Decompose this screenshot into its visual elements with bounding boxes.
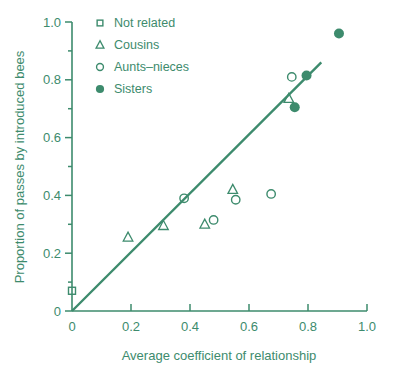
legend: Not relatedCousinsAunts–niecesSisters xyxy=(96,16,189,96)
regression-line xyxy=(72,62,321,311)
y-axis-tick-label: 0.2 xyxy=(43,246,61,261)
data-point-open-circle xyxy=(288,73,296,81)
legend-marker-open-circle xyxy=(97,64,104,71)
data-point-open-circle xyxy=(209,216,217,224)
legend-item-label: Cousins xyxy=(114,38,159,52)
y-axis-tick-labels: 00.20.40.60.81.0 xyxy=(43,15,61,319)
data-point-open-triangle xyxy=(200,219,210,228)
data-point-filled-circle xyxy=(334,29,344,39)
data-point-open-triangle xyxy=(123,232,133,241)
series-sisters xyxy=(290,29,344,113)
y-axis-tick-label: 0.4 xyxy=(43,188,61,203)
x-axis-tick-label: 0 xyxy=(68,319,75,334)
legend-marker-open-triangle xyxy=(96,41,104,48)
x-axis-title: Average coefficient of relationship xyxy=(122,348,317,363)
x-axis-tick-label: 1.0 xyxy=(358,319,376,334)
data-point-filled-circle xyxy=(290,102,300,112)
legend-item-label: Not related xyxy=(114,16,175,30)
legend-item-label: Aunts–nieces xyxy=(114,60,189,74)
x-axis-tick-label: 0.8 xyxy=(299,319,317,334)
y-axis-tick-label: 0.8 xyxy=(43,72,61,87)
legend-marker-filled-circle xyxy=(96,85,104,93)
scatter-plot-figure: 00.20.40.60.81.0 00.20.40.60.81.0 Not re… xyxy=(0,0,394,371)
y-axis-ticks xyxy=(65,22,72,311)
legend-marker-open-square xyxy=(97,20,103,26)
trend-line-group xyxy=(72,62,321,311)
y-axis-tick-label: 0.6 xyxy=(43,130,61,145)
data-point-filled-circle xyxy=(302,70,312,80)
legend-item-label: Sisters xyxy=(114,82,152,96)
plot-canvas: 00.20.40.60.81.0 00.20.40.60.81.0 Not re… xyxy=(0,0,394,371)
y-axis-tick-label: 0 xyxy=(54,304,61,319)
series-aunts-nieces xyxy=(180,73,296,224)
x-axis-tick-label: 0.2 xyxy=(122,319,140,334)
data-points-group xyxy=(69,29,344,295)
y-axis-title: Proportion of passes by introduced bees xyxy=(12,50,27,283)
x-axis-ticks xyxy=(131,304,367,311)
data-point-open-triangle xyxy=(228,184,238,193)
data-point-open-circle xyxy=(232,196,240,204)
x-axis-tick-label: 0.6 xyxy=(240,319,258,334)
y-axis-tick-label: 1.0 xyxy=(43,15,61,30)
x-axis-tick-label: 0.4 xyxy=(181,319,199,334)
data-point-open-circle xyxy=(267,190,275,198)
x-axis-tick-labels: 00.20.40.60.81.0 xyxy=(68,319,376,334)
